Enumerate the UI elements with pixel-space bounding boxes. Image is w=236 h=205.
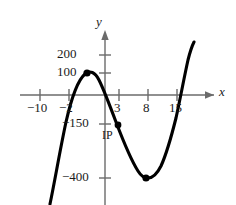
x-tick-label-3: 3 — [114, 100, 121, 116]
x-axis-label: x — [219, 84, 225, 100]
y-axis-label: y — [96, 14, 102, 30]
x-axis-arrowhead — [205, 91, 214, 99]
y-tick-label-200: 200 — [57, 46, 77, 62]
cubic-graph-figure: y x −10 −2 3 8 15 200 100 −150 −400 IP — [0, 0, 236, 205]
x-tick-label-15: 15 — [169, 100, 182, 116]
inflection-point-label: IP — [102, 128, 113, 143]
local-maximum-point — [83, 69, 90, 76]
inflection-point-marker — [115, 122, 122, 129]
y-tick-label-100: 100 — [57, 64, 77, 80]
x-tick-label--2: −2 — [59, 100, 73, 116]
y-tick-label--400: −400 — [62, 169, 89, 185]
x-tick-label-8: 8 — [143, 100, 150, 116]
y-axis-arrowhead — [101, 30, 108, 40]
y-tick-label--150: −150 — [62, 115, 89, 131]
x-tick-label--10: −10 — [27, 100, 47, 116]
local-minimum-point — [142, 174, 149, 181]
